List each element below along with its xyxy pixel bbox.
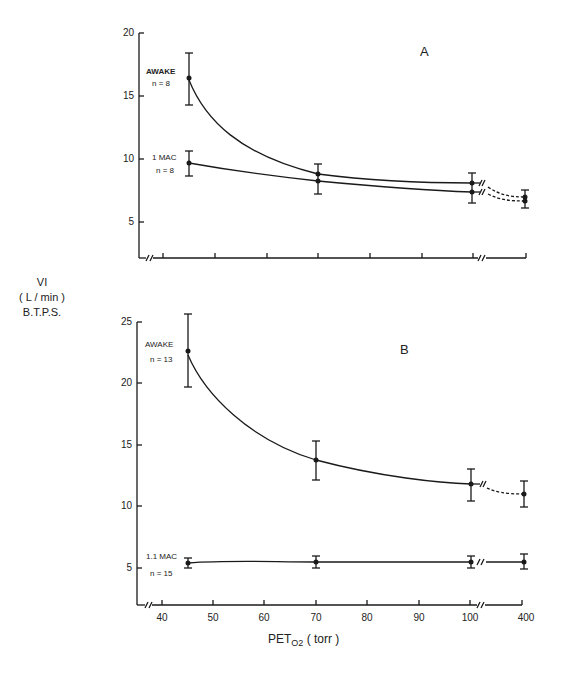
a-mac-n: n = 8	[156, 167, 174, 175]
b-ytick-20: 20	[108, 378, 132, 388]
x-axis-title-unit: ( torr )	[307, 632, 340, 646]
panel-a-axes	[139, 33, 526, 261]
b-ytick-5: 5	[108, 563, 132, 573]
b-awake-label: AWAKE	[145, 341, 173, 349]
y-axis-title-line1: VI	[2, 275, 82, 290]
xtick-100: 100	[455, 613, 485, 623]
b-awake-n: n = 13	[150, 356, 172, 364]
a-ytick-20: 20	[110, 28, 134, 38]
a-ytick-5: 5	[110, 217, 134, 227]
xtick-90: 90	[404, 613, 434, 623]
x-axis-title: PETO2 ( torr )	[268, 633, 339, 648]
chart-canvas	[0, 0, 567, 689]
data-points	[186, 76, 528, 566]
panel-a-label: A	[420, 45, 429, 58]
xtick-400: 400	[511, 613, 541, 623]
a-ytick-10: 10	[110, 154, 134, 164]
panel-b-awake-series	[184, 314, 528, 507]
b-ytick-15: 15	[108, 440, 132, 450]
a-awake-n: n = 8	[152, 80, 170, 88]
panel-b-label: B	[400, 343, 409, 356]
b-mac-n: n = 15	[150, 570, 172, 578]
a-ytick-15: 15	[110, 91, 134, 101]
y-axis-title-line3: B.T.P.S.	[2, 305, 82, 320]
a-mac-label: 1 MAC	[152, 154, 176, 162]
b-mac-label: 1.1 MAC	[146, 553, 177, 561]
xtick-50: 50	[198, 613, 228, 623]
panel-b-mac-series	[184, 554, 528, 569]
xtick-80: 80	[352, 613, 382, 623]
x-axis-title-sub: O2	[291, 638, 303, 648]
y-axis-title-line2: ( L / min )	[2, 290, 82, 305]
panel-b-axes	[137, 322, 522, 608]
x-axis-title-main: PET	[268, 632, 291, 646]
b-ytick-25: 25	[108, 317, 132, 327]
xtick-60: 60	[249, 613, 279, 623]
a-awake-label: AWAKE	[146, 68, 175, 76]
xtick-40: 40	[147, 613, 177, 623]
b-ytick-10: 10	[108, 501, 132, 511]
xtick-70: 70	[301, 613, 331, 623]
